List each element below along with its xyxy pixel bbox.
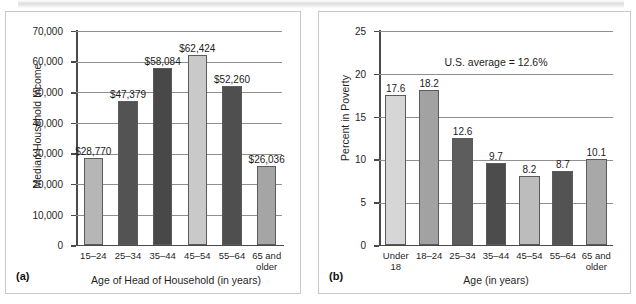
y-axis-tick: 70,000 [71, 31, 76, 33]
bar: 10.165 andolder [586, 159, 607, 244]
chart-panel-b: Percent in Poverty 0510152025 17.6Under1… [318, 11, 631, 294]
bar: $58,08435–44 [153, 68, 172, 244]
x-axis-category-label: 45–54 [516, 250, 542, 261]
x-axis-title-a: Age of Head of Household (in years) [56, 274, 296, 286]
y-axis-tick: 5 [374, 202, 379, 204]
bar-value-label: 17.6 [386, 83, 405, 94]
y-axis-tick-label: 50,000 [32, 87, 63, 98]
x-axis-category-label: 18–24 [416, 250, 442, 261]
bar: 18.218–24 [419, 90, 440, 245]
y-axis-tick-label: 20,000 [32, 178, 63, 189]
bar-value-label: 8.2 [522, 164, 536, 175]
y-axis-line-b [379, 30, 381, 246]
y-axis-tick-label: 25 [355, 25, 366, 36]
y-axis-tick-label: 5 [360, 197, 366, 208]
bar-value-label: 8.7 [556, 159, 570, 170]
y-axis-tick: 20 [374, 74, 379, 76]
y-axis-tick-label: 70,000 [32, 25, 63, 36]
gridline [379, 74, 613, 75]
y-axis-tick: 10 [374, 159, 379, 161]
y-axis-tick-label: 10 [355, 154, 366, 165]
x-axis-category-label: 35–44 [483, 250, 509, 261]
bar: $52,26055–64 [222, 86, 241, 245]
us-average-annotation: U.S. average = 12.6% [444, 56, 547, 68]
y-axis-tick: 25 [374, 31, 379, 33]
y-axis-title-b: Percent in Poverty [339, 43, 351, 193]
bar: $47,37925–34 [118, 101, 137, 245]
gridline [379, 117, 613, 118]
bar-value-label: $62,424 [179, 43, 215, 54]
x-axis-category-label: Under18 [383, 250, 409, 272]
y-axis-tick-label: 0 [57, 240, 63, 251]
bar: 8.755–64 [552, 171, 573, 244]
y-axis-tick: 10,000 [71, 215, 76, 217]
x-axis-line-b [379, 245, 613, 247]
chart-panel-a: Median Household Income 010,00020,00030,… [5, 11, 301, 294]
bar-value-label: 12.6 [453, 126, 472, 137]
gridline [76, 92, 282, 93]
figure-container: Median Household Income 010,00020,00030,… [0, 0, 636, 304]
plot-area-a: 010,00020,00030,00040,00050,00060,00070,… [76, 30, 284, 246]
x-axis-title-b: Age (in years) [379, 274, 613, 286]
bar: 17.6Under18 [385, 95, 406, 245]
bar-value-label: $26,036 [249, 154, 285, 165]
plot-area-b: 0510152025 17.6Under1818.218–2412.625–34… [379, 30, 613, 246]
y-axis-tick: 0 [374, 245, 379, 247]
gridline [76, 184, 282, 185]
bar-value-label: 18.2 [419, 78, 438, 89]
x-axis-category-label: 55–64 [219, 250, 245, 261]
y-axis-tick: 15 [374, 117, 379, 119]
y-axis-tick-label: 10,000 [32, 209, 63, 220]
y-axis-tick-label: 30,000 [32, 148, 63, 159]
x-axis-category-label: 35–44 [149, 250, 175, 261]
x-axis-category-label: 25–34 [115, 250, 141, 261]
gridline [76, 215, 282, 216]
bar-value-label: 10.1 [587, 147, 606, 158]
y-axis-tick-label: 20 [355, 68, 366, 79]
x-axis-category-label: 65 andolder [582, 250, 611, 272]
gridline [76, 31, 282, 32]
panel-label-a: (a) [16, 270, 29, 282]
y-axis-tick: 50,000 [71, 92, 76, 94]
y-axis-tick-label: 60,000 [32, 56, 63, 67]
x-axis-category-label: 25–34 [449, 250, 475, 261]
gridline [379, 31, 613, 32]
bar: 12.625–34 [452, 138, 473, 245]
y-axis-tick-label: 15 [355, 111, 366, 122]
bar: 8.245–54 [519, 176, 540, 245]
bar-value-label: $47,379 [110, 89, 146, 100]
bar-value-label: $52,260 [214, 74, 250, 85]
bar: 9.735–44 [486, 163, 507, 245]
bar: $62,42445–54 [188, 55, 207, 245]
x-axis-category-label: 15–24 [80, 250, 106, 261]
bar-value-label: $58,084 [145, 56, 181, 67]
gridline [76, 123, 282, 124]
y-axis-tick-label: 40,000 [32, 117, 63, 128]
y-axis-tick-label: 0 [360, 240, 366, 251]
x-axis-category-label: 65 andolder [252, 250, 281, 272]
bar: $28,77015–24 [84, 158, 103, 245]
y-axis-tick: 40,000 [71, 123, 76, 125]
x-axis-line-a [76, 245, 284, 247]
y-axis-tick: 0 [71, 245, 76, 247]
bar-value-label: $28,770 [75, 146, 111, 157]
x-axis-category-label: 55–64 [550, 250, 576, 261]
x-axis-category-label: 45–54 [184, 250, 210, 261]
y-axis-tick: 60,000 [71, 61, 76, 63]
panel-label-b: (b) [329, 270, 343, 282]
y-axis-tick: 20,000 [71, 184, 76, 186]
bar-value-label: 9.7 [489, 151, 503, 162]
bar: $26,03665 andolder [257, 166, 276, 244]
